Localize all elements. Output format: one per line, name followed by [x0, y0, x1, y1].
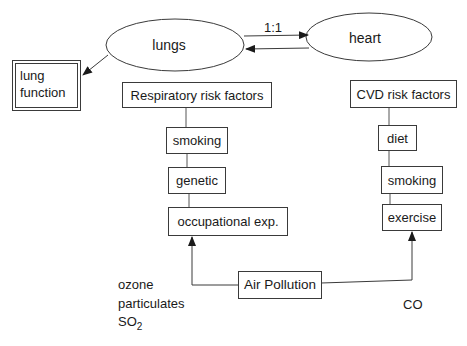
- air-pollution-box: Air Pollution: [238, 271, 322, 299]
- pollutant-co: CO: [403, 297, 423, 312]
- respiratory-risk-factors-box: Respiratory risk factors: [122, 82, 272, 108]
- lungs-to-heart-arrow: [244, 35, 308, 36]
- heart-label: heart: [349, 30, 381, 46]
- cvd-smoking-box: smoking: [381, 166, 443, 194]
- resp-smoking-box: smoking: [166, 127, 228, 154]
- cvd-diet-box: diet: [378, 125, 417, 151]
- air-pollution-to-cvd-arrow: [321, 232, 412, 283]
- pollutant-so2: SO2: [118, 314, 142, 332]
- pollutant-ozone: ozone: [118, 277, 153, 292]
- so2-subscript: 2: [137, 321, 143, 332]
- lungs-label: lungs: [152, 37, 185, 53]
- air-pollution-to-respiratory-arrow: [192, 237, 239, 285]
- cvd-exercise-box: exercise: [382, 204, 442, 231]
- ratio-label: 1:1: [264, 20, 282, 35]
- so2-base: SO: [118, 314, 137, 329]
- heart-to-lungs-arrow: [246, 48, 309, 49]
- pollutant-particulates: particulates: [118, 296, 184, 311]
- resp-genetic-box: genetic: [168, 167, 226, 194]
- lung-function-box: lung function: [12, 60, 81, 111]
- resp-occupational-box: occupational exp.: [168, 207, 288, 236]
- lung-function-label: lung function: [15, 63, 78, 108]
- lungs-to-lung-function-arrow: [83, 55, 108, 75]
- cvd-risk-factors-box: CVD risk factors: [350, 80, 457, 108]
